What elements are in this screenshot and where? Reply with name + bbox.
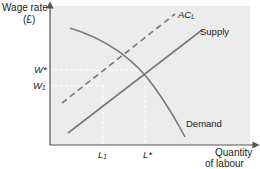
acl-label: ACL [178, 10, 195, 21]
y-axis-label-line1: Wage rate [2, 3, 48, 13]
y-axis-label-line2: (£) [23, 15, 35, 25]
acl-label-text: AC [178, 9, 191, 20]
acl-label-sub: L [191, 13, 195, 20]
x-tick-l1: L1 [98, 150, 107, 161]
y-tick-w1: W1 [33, 81, 46, 92]
x-axis-label-line2: of labour [205, 159, 244, 169]
x-axis-label-line1: Quantity [215, 148, 252, 158]
x-tick-l1-sub: 1 [103, 153, 107, 160]
x-tick-l-star: L* [143, 150, 152, 160]
demand-label: Demand [186, 119, 222, 129]
supply-label: Supply [200, 27, 229, 37]
y-tick-w-star: W* [34, 65, 47, 75]
y-tick-w1-sub: 1 [42, 84, 46, 91]
y-tick-w1-text: W [33, 80, 42, 91]
